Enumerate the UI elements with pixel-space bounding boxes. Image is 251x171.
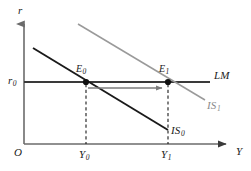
tick-label-y0-base: Y (79, 148, 85, 160)
label-e1: E1 (159, 64, 169, 74)
curve-label-lm: LM (214, 70, 230, 81)
tick-label-r0-base: r (8, 74, 12, 86)
origin-label: O (14, 147, 22, 158)
label-e0: E0 (76, 64, 86, 74)
curve-label-is1: IS1 (207, 100, 221, 111)
y-axis-label: r (18, 5, 22, 16)
label-e1-base: E (159, 63, 165, 74)
curve-label-is1-sub: 1 (217, 104, 221, 113)
x-axis-label: Y (236, 146, 242, 157)
is0-curve (33, 48, 168, 130)
label-e1-sub: 1 (166, 67, 170, 76)
point-e1 (165, 79, 171, 85)
label-e0-sub: 0 (83, 67, 87, 76)
tick-label-y1: Y1 (161, 149, 171, 160)
tick-label-r0-sub: 0 (13, 79, 17, 88)
tick-label-y1-base: Y (161, 148, 167, 160)
label-e0-base: E (76, 63, 82, 74)
tick-label-r0: r0 (8, 75, 16, 86)
diagram-canvas (0, 0, 251, 171)
point-e0 (83, 79, 89, 85)
tick-label-y1-sub: 1 (168, 153, 172, 162)
tick-label-y0: Y0 (79, 149, 89, 160)
tick-label-y0-sub: 0 (86, 153, 90, 162)
curve-label-is0: IS0 (171, 125, 185, 136)
curve-label-is0-sub: 0 (181, 129, 185, 138)
is-lm-diagram: r Y O r0 Y0 Y1 E0 E1 LM IS1 IS0 (0, 0, 251, 171)
curve-label-lm-base: LM (214, 69, 230, 81)
curve-label-is0-base: IS (171, 124, 181, 136)
curve-label-is1-base: IS (207, 99, 217, 111)
